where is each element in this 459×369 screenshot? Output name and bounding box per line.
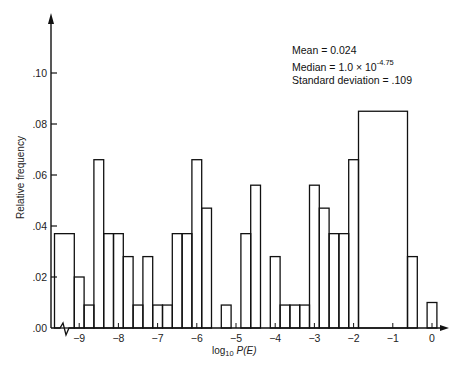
histogram-bar: [359, 111, 408, 328]
x-tick-label: −7: [152, 332, 164, 344]
x-axis-ticks: −9−8−7−6−5−4−3−2−10: [73, 323, 435, 344]
histogram-bar: [339, 234, 349, 328]
histogram-bars: [55, 111, 437, 328]
histogram-bar: [104, 234, 114, 328]
y-tick-label: .02: [32, 271, 47, 283]
histogram-bar: [300, 305, 310, 328]
x-tick-label: −8: [112, 332, 124, 344]
histogram-bar: [172, 234, 182, 328]
x-axis-label-var: P(E): [234, 345, 257, 356]
y-tick-label: .10: [32, 67, 47, 79]
histogram-bar: [55, 234, 75, 328]
histogram-bar: [143, 257, 153, 328]
histogram-bar: [114, 234, 124, 328]
histogram-chart: .00.02.04.06.08.10 −9−8−7−6−5−4−3−2−10: [0, 0, 459, 369]
histogram-bar: [221, 305, 231, 328]
histogram-bar: [280, 305, 290, 328]
x-axis-label-base: 10: [225, 349, 233, 358]
y-axis-ticks: .00.02.04.06.08.10: [32, 67, 57, 334]
histogram-bar: [163, 305, 173, 328]
x-tick-label: −3: [308, 332, 320, 344]
histogram-bar: [202, 208, 212, 328]
median-annotation: Median = 1.0 × 10-4.75: [292, 59, 394, 73]
x-tick-label: −5: [230, 332, 242, 344]
histogram-bar: [241, 234, 251, 328]
y-tick-label: .00: [32, 322, 47, 334]
median-text: Median = 1.0 × 10: [292, 61, 377, 73]
histogram-bar: [192, 160, 202, 328]
histogram-bar: [123, 257, 133, 328]
y-tick-label: .04: [32, 220, 47, 232]
x-tick-label: −4: [269, 332, 281, 344]
histogram-bar: [319, 208, 329, 328]
x-tick-label: −9: [73, 332, 85, 344]
y-axis-arrow-icon: [48, 13, 54, 24]
y-tick-label: .08: [32, 118, 47, 130]
x-axis-label-log: log: [212, 345, 225, 356]
median-exponent: -4.75: [377, 58, 394, 67]
std-annotation: Standard deviation = .109: [292, 74, 412, 86]
x-axis-arrow-icon: [440, 325, 449, 331]
x-tick-label: −1: [387, 332, 399, 344]
histogram-bar: [329, 234, 339, 328]
x-tick-label: −2: [348, 332, 360, 344]
x-axis-line: [51, 323, 442, 335]
histogram-bar: [94, 160, 104, 328]
histogram-bar: [74, 277, 84, 328]
histogram-bar: [133, 305, 143, 328]
histogram-bar: [84, 305, 94, 328]
x-tick-label: −6: [191, 332, 203, 344]
y-axis-label: Relative frequency: [15, 128, 26, 228]
histogram-bar: [408, 257, 418, 328]
histogram-bar: [182, 234, 192, 328]
mean-annotation: Mean = 0.024: [292, 44, 357, 56]
histogram-bar: [251, 185, 261, 328]
histogram-bar: [270, 257, 280, 328]
x-tick-label: 0: [429, 332, 435, 344]
histogram-bar: [310, 185, 320, 328]
x-axis-label: log10 P(E): [212, 345, 256, 356]
y-tick-label: .06: [32, 169, 47, 181]
histogram-bar: [349, 160, 359, 328]
histogram-bar: [290, 305, 300, 328]
